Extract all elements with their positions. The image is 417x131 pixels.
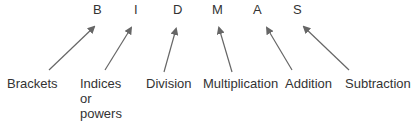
arrows [0,0,417,131]
label-subtraction: Subtraction [345,76,411,91]
label-division: Division [146,76,192,91]
label-multiplication: Multiplication [203,76,278,91]
label-addition: Addition [285,76,332,91]
arrow-d [164,29,176,72]
arrow-i [105,28,131,70]
arrow-s [304,27,349,70]
label-indices: Indices or powers [80,76,122,121]
arrow-b [49,27,94,70]
label-brackets: Brackets [7,76,58,91]
arrow-m [219,28,232,72]
arrow-a [267,28,292,70]
